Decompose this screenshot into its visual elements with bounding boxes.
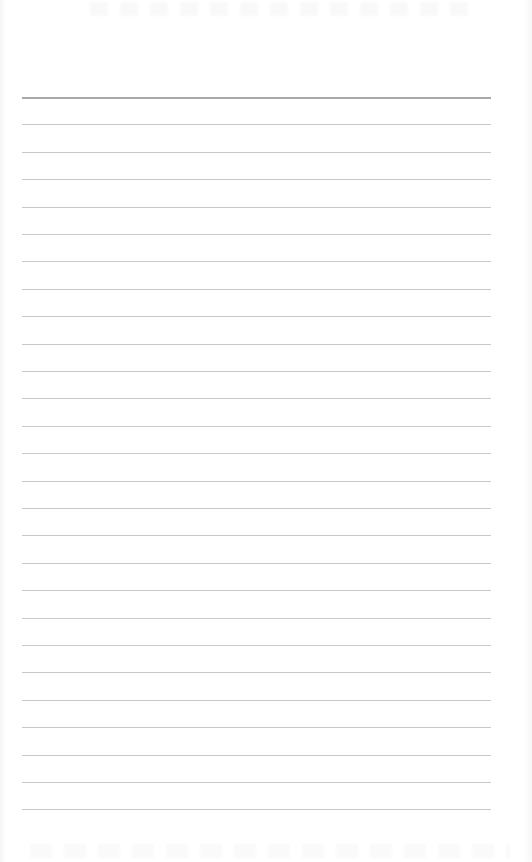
ruled-line xyxy=(22,316,491,317)
ruled-line xyxy=(22,672,491,673)
ruled-line xyxy=(22,152,491,153)
ruled-line xyxy=(22,809,491,810)
ruled-line xyxy=(22,207,491,208)
ruled-line xyxy=(22,727,491,728)
ruled-line xyxy=(22,426,491,427)
bleed-through-text-bottom xyxy=(30,844,510,858)
ruled-line xyxy=(22,618,491,619)
ruled-line xyxy=(22,481,491,482)
ruled-line xyxy=(22,453,491,454)
ruled-line xyxy=(22,508,491,509)
bleed-through-text-top xyxy=(90,2,470,16)
ruled-line xyxy=(22,289,491,290)
ruled-line xyxy=(22,344,491,345)
ruled-line xyxy=(22,371,491,372)
ruled-line xyxy=(22,590,491,591)
ruled-line xyxy=(22,179,491,180)
ruled-line xyxy=(22,755,491,756)
ruled-line xyxy=(22,782,491,783)
lined-paper-page xyxy=(0,0,532,862)
ruled-line xyxy=(22,563,491,564)
ruled-line xyxy=(22,645,491,646)
ruled-line xyxy=(22,700,491,701)
ruled-line xyxy=(22,535,491,536)
ruled-line xyxy=(22,124,491,125)
ruled-line xyxy=(22,97,491,99)
ruled-line xyxy=(22,398,491,399)
ruled-line xyxy=(22,234,491,235)
ruled-line xyxy=(22,261,491,262)
